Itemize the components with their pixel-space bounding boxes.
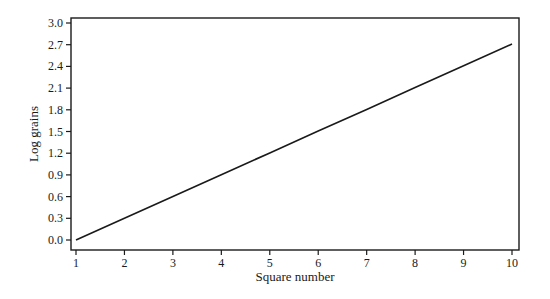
y-tick-label: 0.9 bbox=[48, 168, 63, 182]
y-tick-label: 0.6 bbox=[48, 190, 63, 204]
x-axis-label: Square number bbox=[255, 269, 335, 284]
x-tick-label: 9 bbox=[461, 256, 467, 270]
x-tick-label: 2 bbox=[121, 256, 127, 270]
y-tick-label: 1.5 bbox=[48, 125, 63, 139]
y-tick-label: 0.3 bbox=[48, 211, 63, 225]
x-tick-label: 7 bbox=[364, 256, 370, 270]
x-axis: 12345678910 bbox=[73, 250, 518, 270]
x-tick-label: 5 bbox=[267, 256, 273, 270]
y-tick-label: 2.7 bbox=[48, 38, 63, 52]
x-tick-label: 3 bbox=[170, 256, 176, 270]
data-series bbox=[76, 44, 512, 240]
series-line bbox=[76, 44, 512, 240]
x-tick-label: 4 bbox=[218, 256, 224, 270]
y-tick-label: 0.0 bbox=[48, 233, 63, 247]
x-tick-label: 8 bbox=[412, 256, 418, 270]
y-tick-label: 2.1 bbox=[48, 81, 63, 95]
y-tick-label: 1.2 bbox=[48, 146, 63, 160]
x-tick-label: 10 bbox=[506, 256, 518, 270]
x-tick-label: 1 bbox=[73, 256, 79, 270]
y-axis: 0.00.30.60.91.21.51.82.12.42.73.0 bbox=[48, 16, 71, 247]
y-tick-label: 2.4 bbox=[48, 59, 63, 73]
y-axis-label: Log grains bbox=[26, 106, 41, 162]
line-chart: 0.00.30.60.91.21.51.82.12.42.73.0 123456… bbox=[0, 0, 550, 299]
y-tick-label: 1.8 bbox=[48, 103, 63, 117]
plot-frame bbox=[71, 18, 519, 250]
x-tick-label: 6 bbox=[315, 256, 321, 270]
y-tick-label: 3.0 bbox=[48, 16, 63, 30]
